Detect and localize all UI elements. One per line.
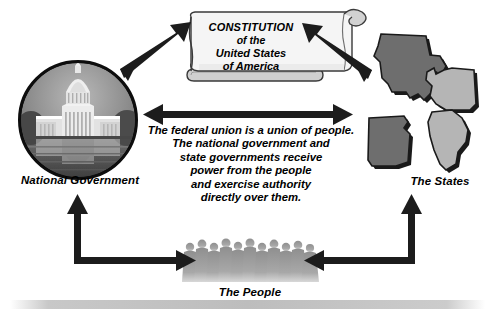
arrow-people-to-states — [304, 194, 422, 271]
scroll-line-3: United States — [201, 47, 301, 60]
statement-line-4: power from the people — [142, 164, 360, 177]
scroll-line-1: CONSTITUTION — [201, 21, 301, 34]
center-statement: The federal union is a union of people. … — [142, 124, 360, 204]
state-shapes — [368, 34, 479, 173]
ground-shadow-bar — [10, 300, 485, 309]
statement-line-2: The national government and — [142, 137, 360, 150]
people-silhouettes — [182, 239, 319, 283]
states-label: The States — [385, 175, 495, 187]
state-shape-maine — [428, 110, 471, 173]
statement-line-5: and exercise authority — [142, 178, 360, 191]
scroll-line-4: of America — [201, 60, 301, 73]
federalism-diagram: CONSTITUTION of the United States of Ame… — [0, 0, 495, 321]
statement-line-1: The federal union is a union of people. — [142, 124, 360, 137]
statement-line-6: directly over them. — [142, 191, 360, 204]
national-government-label: National Government — [0, 174, 160, 186]
state-shape-washington — [426, 68, 479, 113]
arrow-national-to-constitution — [120, 22, 191, 81]
arrow-people-to-national — [67, 194, 196, 271]
statement-line-3: state governments receive — [142, 151, 360, 164]
state-shape-arkansas — [368, 116, 413, 169]
constitution-scroll-text: CONSTITUTION of the United States of Ame… — [201, 21, 301, 73]
people-label: The People — [175, 286, 325, 298]
scroll-line-2: of the — [201, 34, 301, 47]
arrow-national-to-states — [143, 104, 353, 125]
